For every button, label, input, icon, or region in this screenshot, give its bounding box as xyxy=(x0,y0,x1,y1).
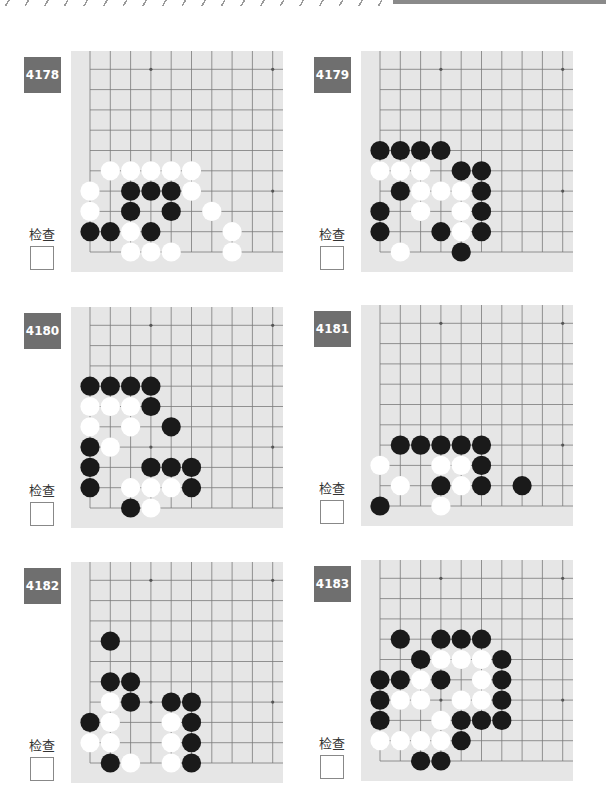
white-stone xyxy=(162,713,181,732)
black-stone xyxy=(101,753,120,772)
white-stone xyxy=(452,456,471,475)
check-box[interactable] xyxy=(30,757,54,781)
white-stone xyxy=(80,733,99,752)
black-stone xyxy=(141,222,160,241)
problem-number-badge: 4182 xyxy=(24,568,61,604)
problem-4182: 4182 检查 xyxy=(20,562,310,792)
check-box[interactable] xyxy=(320,246,344,270)
white-stone xyxy=(121,161,140,180)
black-stone xyxy=(472,202,491,221)
problem-4183: 4183 检查 xyxy=(310,560,600,790)
white-stone xyxy=(141,161,160,180)
white-stone xyxy=(391,476,410,495)
black-stone xyxy=(370,202,389,221)
white-stone xyxy=(121,242,140,261)
black-stone xyxy=(431,222,450,241)
check-box[interactable] xyxy=(320,755,344,779)
header-slash-decoration xyxy=(0,0,392,6)
white-stone xyxy=(391,691,410,710)
star-point xyxy=(561,699,564,702)
white-stone xyxy=(391,731,410,750)
white-stone xyxy=(162,733,181,752)
white-stone xyxy=(121,478,140,497)
black-stone xyxy=(431,141,450,160)
white-stone xyxy=(411,161,430,180)
black-stone xyxy=(141,397,160,416)
check-box[interactable] xyxy=(30,246,54,270)
black-stone xyxy=(411,141,430,160)
white-stone xyxy=(370,161,389,180)
white-stone xyxy=(101,713,120,732)
white-stone xyxy=(141,242,160,261)
black-stone xyxy=(80,377,99,396)
check-label: 检查 xyxy=(312,733,352,752)
black-stone xyxy=(472,436,491,455)
white-stone xyxy=(141,498,160,517)
white-stone xyxy=(370,731,389,750)
white-stone xyxy=(162,161,181,180)
problem-4179: 4179 检查 xyxy=(310,51,600,281)
star-point xyxy=(439,577,442,580)
white-stone xyxy=(452,476,471,495)
black-stone xyxy=(121,182,140,201)
white-stone xyxy=(101,161,120,180)
problem-4181: 4181 检查 xyxy=(310,305,600,535)
go-board xyxy=(361,560,573,781)
star-point xyxy=(561,68,564,71)
star-point xyxy=(149,446,152,449)
problem-number-badge: 4181 xyxy=(314,311,351,347)
check-label: 检查 xyxy=(312,224,352,243)
black-stone xyxy=(182,458,201,477)
white-stone xyxy=(80,182,99,201)
white-stone xyxy=(391,161,410,180)
black-stone xyxy=(80,478,99,497)
check-box[interactable] xyxy=(320,500,344,524)
black-stone xyxy=(492,650,511,669)
go-board xyxy=(361,51,573,272)
white-stone xyxy=(452,222,471,241)
black-stone xyxy=(101,222,120,241)
problem-4180: 4180 检查 xyxy=(20,307,310,537)
black-stone xyxy=(431,751,450,770)
white-stone xyxy=(162,753,181,772)
black-stone xyxy=(391,670,410,689)
black-stone xyxy=(141,182,160,201)
black-stone xyxy=(452,731,471,750)
black-stone xyxy=(411,650,430,669)
star-point xyxy=(271,446,274,449)
black-stone xyxy=(391,182,410,201)
white-stone xyxy=(411,670,430,689)
problem-4178: 4178 检查 xyxy=(20,51,310,281)
black-stone xyxy=(141,377,160,396)
problem-number-badge: 4179 xyxy=(314,57,351,93)
white-stone xyxy=(411,202,430,221)
white-stone xyxy=(411,731,430,750)
black-stone xyxy=(391,630,410,649)
white-stone xyxy=(472,691,491,710)
white-stone xyxy=(431,456,450,475)
star-point xyxy=(271,324,274,327)
white-stone xyxy=(101,733,120,752)
black-stone xyxy=(472,161,491,180)
go-board xyxy=(71,562,283,783)
white-stone xyxy=(101,397,120,416)
star-point xyxy=(561,577,564,580)
white-stone xyxy=(202,202,221,221)
black-stone xyxy=(431,436,450,455)
black-stone xyxy=(492,691,511,710)
check-box[interactable] xyxy=(30,502,54,526)
black-stone xyxy=(492,711,511,730)
black-stone xyxy=(101,377,120,396)
check-label: 检查 xyxy=(22,224,62,243)
white-stone xyxy=(472,670,491,689)
white-stone xyxy=(472,650,491,669)
star-point xyxy=(561,322,564,325)
white-stone xyxy=(431,731,450,750)
black-stone xyxy=(370,141,389,160)
black-stone xyxy=(472,456,491,475)
black-stone xyxy=(370,670,389,689)
black-stone xyxy=(162,182,181,201)
white-stone xyxy=(162,478,181,497)
black-stone xyxy=(80,438,99,457)
star-point xyxy=(149,324,152,327)
